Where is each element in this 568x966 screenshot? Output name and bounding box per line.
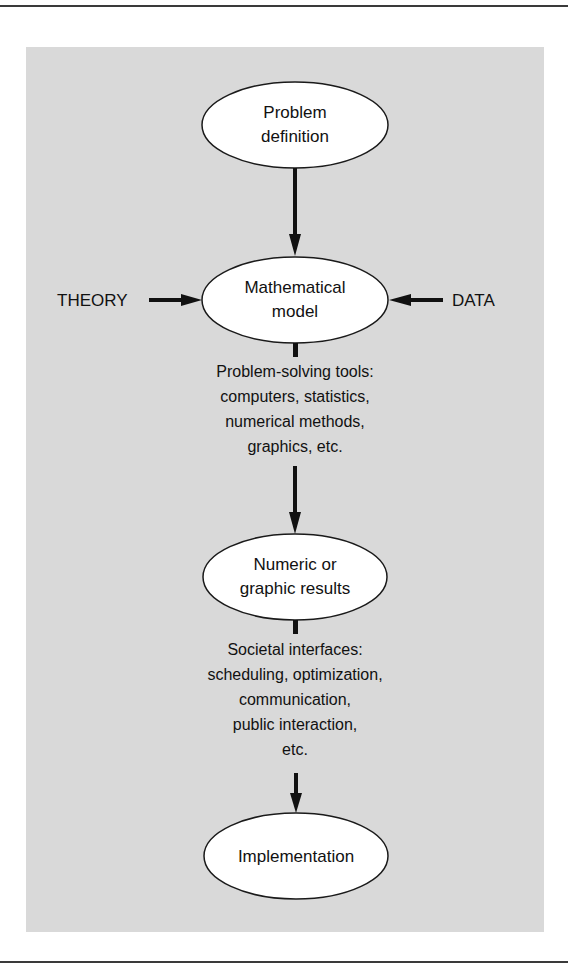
arrow-problem-to-model-icon [289, 168, 301, 256]
node-ellipse [203, 534, 387, 620]
arrow-model-to-results-icon [289, 466, 301, 534]
edge-label-line: public interaction, [233, 716, 358, 733]
edge-label-line: numerical methods, [225, 413, 365, 430]
edge-label-line: computers, statistics, [220, 388, 369, 405]
node-ellipse [202, 257, 388, 343]
edge-label-line: Societal interfaces: [227, 641, 362, 658]
connector-stub [293, 620, 298, 634]
connector-stub [293, 343, 298, 357]
edge-label-societal-interfaces: Societal interfaces: scheduling, optimiz… [207, 641, 382, 758]
bottom-rule [0, 961, 568, 963]
node-label-line: definition [261, 127, 329, 146]
arrow-theory-to-model-icon [149, 294, 202, 306]
node-ellipse [202, 82, 388, 168]
edge-label-line: graphics, etc. [247, 438, 342, 455]
node-numeric-graphic-results: Numeric or graphic results [203, 534, 387, 620]
edge-label-problem-solving-tools: Problem-solving tools: computers, statis… [216, 363, 373, 455]
flowchart: Problem definition THEORY DATA Mathemati… [0, 0, 568, 966]
node-label-line: Mathematical [244, 278, 345, 297]
node-label-line: Problem [263, 103, 326, 122]
node-label-line: Implementation [238, 847, 354, 866]
node-label-line: Numeric or [253, 555, 336, 574]
edge-label-line: Problem-solving tools: [216, 363, 373, 380]
node-implementation: Implementation [204, 813, 388, 899]
node-label-line: model [272, 302, 318, 321]
input-data-label: DATA [452, 291, 495, 310]
edge-label-line: etc. [282, 741, 308, 758]
input-theory-label: THEORY [57, 291, 128, 310]
node-problem-definition: Problem definition [202, 82, 388, 168]
edge-label-line: communication, [239, 691, 351, 708]
arrow-results-to-implementation-icon [290, 773, 302, 813]
edge-label-line: scheduling, optimization, [207, 666, 382, 683]
node-mathematical-model: Mathematical model [202, 257, 388, 343]
arrow-data-to-model-icon [389, 294, 443, 306]
node-label-line: graphic results [240, 579, 351, 598]
